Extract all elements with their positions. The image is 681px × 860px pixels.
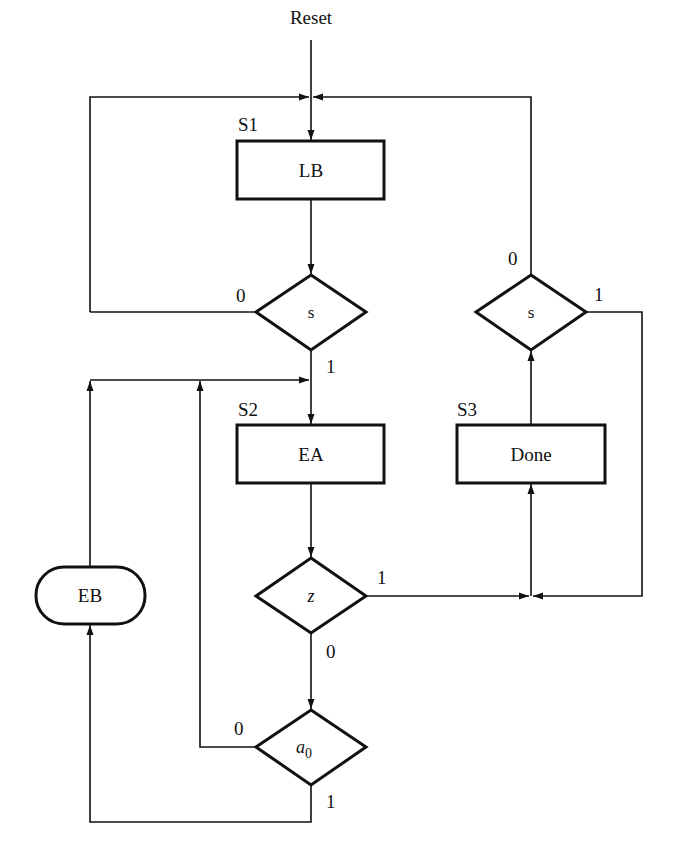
s1-loop-back-arrow (90, 97, 309, 312)
decision-s-s3-branch-1-label: 1 (594, 284, 604, 305)
state-label-s3: S3 (457, 399, 477, 420)
decision-z-branch-0-label: 0 (326, 641, 336, 662)
decision-a0-branch-1-label: 1 (326, 791, 336, 812)
state-output-ea: EA (298, 444, 324, 465)
state-output-done: Done (510, 444, 551, 465)
conditional-output-eb-label: EB (78, 585, 102, 606)
decision-s-s1-branch-0-label: 0 (236, 285, 246, 306)
asm-chart: Reset S1 LB s 0 1 S2 EA z 1 0 S3 Done s … (0, 0, 681, 860)
state-output-lb: LB (299, 160, 323, 181)
decision-s-s1-label: s (308, 303, 315, 322)
decision-z-branch-1-label: 1 (377, 567, 387, 588)
decision-z-label: z (306, 586, 314, 606)
decision-s-s3-label: s (528, 303, 535, 322)
decision-a0-base: a (296, 737, 305, 757)
reset-label: Reset (290, 7, 333, 28)
state-label-s2: S2 (238, 399, 258, 420)
decision-s-s1-branch-1-label: 1 (326, 356, 336, 377)
decision-s-s3-branch-0-label: 0 (508, 248, 518, 269)
decision-a0-subscript: 0 (305, 746, 312, 761)
state-label-s1: S1 (238, 114, 258, 135)
decision-a0-branch-0-label: 0 (234, 718, 244, 739)
